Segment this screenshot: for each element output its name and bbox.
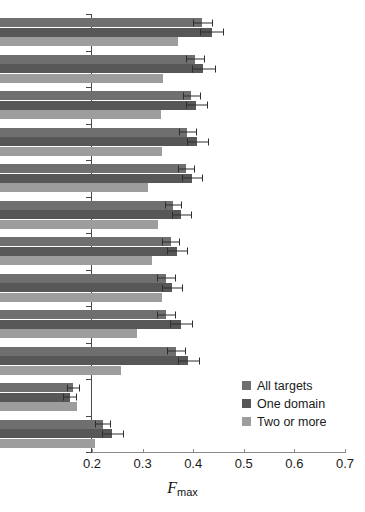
bar-group: GOstruct <box>0 51 253 88</box>
bar-row <box>0 356 253 365</box>
x-axis-tick-label: 0.7 <box>325 456 365 471</box>
bar-row <box>0 91 253 100</box>
x-axis-tick-label: 0.4 <box>173 456 213 471</box>
bar-row <box>0 183 253 192</box>
bar-row <box>0 293 253 302</box>
bar <box>0 283 172 292</box>
error-bar-cap <box>193 19 194 26</box>
bar-group: Jones-UCL <box>0 14 253 51</box>
x-axis-tick <box>294 449 295 453</box>
error-bar-cap <box>123 430 124 437</box>
legend-item: Two or more <box>242 414 326 429</box>
legend-item: All targets <box>242 378 326 393</box>
bar-group: ESG <box>0 306 253 343</box>
bar-row <box>0 18 253 27</box>
bar <box>0 91 191 100</box>
error-bar-cap <box>199 357 200 364</box>
error-bar <box>182 178 202 179</box>
bar <box>0 201 173 210</box>
error-bar <box>200 32 223 33</box>
error-bar <box>170 324 192 325</box>
bar <box>0 329 137 338</box>
bar <box>0 183 148 192</box>
error-bar-cap <box>172 211 173 218</box>
bar <box>0 220 158 229</box>
error-bar-cap <box>192 321 193 328</box>
error-bar-cap <box>202 175 203 182</box>
bar-group: MS-kNN <box>0 233 253 270</box>
bar <box>0 439 95 448</box>
error-bar <box>63 397 76 398</box>
x-axis-tick-label: 0.3 <box>123 456 163 471</box>
error-bar-cap <box>200 92 201 99</box>
bar-row <box>0 201 253 210</box>
error-bar-cap <box>175 275 176 282</box>
error-bar-cap <box>175 311 176 318</box>
error-bar-cap <box>67 384 68 391</box>
error-bar-cap <box>162 238 163 245</box>
error-bar-cap <box>196 129 197 136</box>
error-bar-cap <box>178 165 179 172</box>
bar-row <box>0 110 253 119</box>
legend-label: One domain <box>257 397 325 411</box>
error-bar-cap <box>212 19 213 26</box>
bar-group: dcGO <box>0 343 253 380</box>
bar-row <box>0 128 253 137</box>
bar-row <box>0 210 253 219</box>
bar <box>0 174 192 183</box>
legend-item: One domain <box>242 396 326 411</box>
bar-row <box>0 64 253 73</box>
bar <box>0 310 166 319</box>
bar <box>0 128 187 137</box>
error-bar-cap <box>185 348 186 355</box>
bar-row <box>0 439 253 448</box>
error-bar-cap <box>179 129 180 136</box>
bar <box>0 137 197 146</box>
bar-group: FASS <box>0 270 253 307</box>
x-axis-title-subscript: max <box>177 486 198 498</box>
error-bar-cap <box>204 56 205 63</box>
x-axis-line <box>91 452 346 453</box>
bar <box>0 402 77 411</box>
bar-chart: Jones-UCLGOstructArgot2ConFuncPANNZERTia… <box>0 0 365 512</box>
error-bar <box>95 424 110 425</box>
chart-legend: All targetsOne domainTwo or more <box>242 378 326 432</box>
bar <box>0 147 162 156</box>
bar <box>0 274 166 283</box>
bar <box>0 293 162 302</box>
error-bar <box>183 95 200 96</box>
error-bar <box>165 205 181 206</box>
error-bar <box>179 132 196 133</box>
bar <box>0 393 70 402</box>
bar-row <box>0 147 253 156</box>
bar <box>0 356 188 365</box>
error-bar-cap <box>170 321 171 328</box>
error-bar <box>178 360 199 361</box>
bar-row <box>0 420 253 429</box>
bar-row <box>0 347 253 356</box>
error-bar-cap <box>157 311 158 318</box>
bar-row <box>0 320 253 329</box>
bar <box>0 247 177 256</box>
bar-row <box>0 247 253 256</box>
bar <box>0 429 112 438</box>
x-axis-tick-label: 0.5 <box>224 456 264 471</box>
legend-label: Two or more <box>257 415 326 429</box>
error-bar-cap <box>191 211 192 218</box>
bar <box>0 366 121 375</box>
error-bar <box>192 68 215 69</box>
bar <box>0 64 203 73</box>
bar <box>0 164 186 173</box>
bar <box>0 101 196 110</box>
bar-row <box>0 137 253 146</box>
bar-row <box>0 55 253 64</box>
legend-swatch <box>242 399 251 408</box>
x-axis-tick-label: 0.6 <box>274 456 314 471</box>
bar-group: PANNZER <box>0 160 253 197</box>
error-bar <box>186 105 207 106</box>
error-bar <box>178 168 194 169</box>
bar <box>0 256 152 265</box>
error-bar-cap <box>110 421 111 428</box>
bar-row <box>0 237 253 246</box>
legend-swatch <box>242 381 251 390</box>
